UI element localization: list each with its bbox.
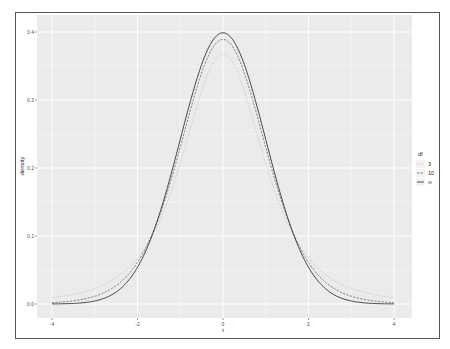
- y-tick-label: 0.2: [27, 165, 34, 171]
- x-axis: -4-2024: [50, 318, 396, 327]
- x-tick-label: 4: [393, 321, 396, 327]
- legend: df 310∞: [416, 151, 434, 186]
- y-tick-label: 0.3: [27, 97, 34, 103]
- legend-label: 3: [428, 161, 431, 167]
- x-tick-label: -2: [135, 321, 140, 327]
- legend-label: ∞: [428, 179, 432, 185]
- y-tick-label: 0.1: [27, 233, 34, 239]
- chart-svg: -4-2024 0.00.10.20.30.4 t density df 310…: [0, 0, 450, 349]
- plot-panel: [37, 15, 412, 318]
- y-tick-label: 0.4: [27, 29, 34, 35]
- y-axis-title: density: [19, 156, 25, 175]
- legend-title: df: [418, 151, 423, 157]
- x-tick-label: 2: [307, 321, 310, 327]
- x-axis-title: t: [222, 327, 224, 333]
- y-tick-label: 0.0: [27, 301, 34, 307]
- y-axis: 0.00.10.20.30.4: [27, 29, 37, 307]
- x-tick-label: -4: [50, 321, 55, 327]
- legend-label: 10: [428, 170, 434, 176]
